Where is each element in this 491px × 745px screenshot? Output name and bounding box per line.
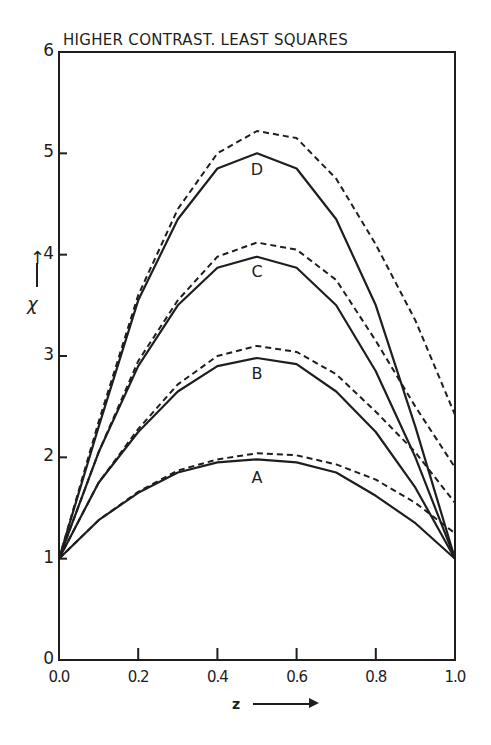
curve-label-c: C (247, 262, 267, 281)
y-tick-label: 0 (34, 648, 54, 668)
y-axis-label: ↑ χ (27, 293, 38, 314)
x-axis-label: z (232, 696, 319, 712)
curve-label-a: A (247, 468, 267, 487)
x-tick-label: 0.8 (356, 668, 396, 686)
chart-plot-area (0, 0, 491, 745)
y-tick-label: 1 (34, 547, 54, 567)
x-axis-arrowhead (309, 698, 319, 708)
x-tick-label: 0.6 (277, 668, 317, 686)
y-axis-label-text: χ (27, 293, 38, 314)
x-tick-label: 0.0 (39, 668, 79, 686)
curve-label-d: D (247, 160, 267, 179)
x-axis-arrow-icon (253, 703, 309, 705)
y-tick-label: 3 (34, 344, 54, 364)
y-tick-label: 2 (34, 445, 54, 465)
chart-title: HIGHER CONTRAST. LEAST SQUARES (63, 31, 348, 49)
x-tick-label: 0.4 (197, 668, 237, 686)
y-tick-label: 5 (34, 141, 54, 161)
y-tick-label: 6 (34, 40, 54, 60)
x-axis-label-text: z (232, 696, 240, 712)
curve-label-b: B (247, 364, 267, 383)
curve-d-dashed (59, 131, 455, 559)
y-axis-arrow-shaft (36, 263, 38, 287)
x-tick-label: 1.0 (435, 668, 475, 686)
x-tick-label: 0.2 (118, 668, 158, 686)
curve-c-dashed (59, 243, 455, 559)
series-group (59, 131, 455, 559)
